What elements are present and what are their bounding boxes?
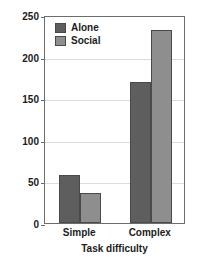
legend-swatch-social-icon — [55, 36, 66, 46]
legend-label-social: Social — [71, 36, 100, 46]
y-axis-tick-mark — [41, 142, 45, 143]
bar-simple-alone — [59, 175, 80, 223]
y-axis-tick-label: 250 — [22, 12, 39, 22]
y-axis-tick-label: 0 — [33, 220, 39, 230]
y-axis-tick-label: 100 — [22, 137, 39, 147]
bar-chart-figure: Running time 050100150200250 Alone Socia… — [0, 0, 198, 262]
bar-complex-social — [151, 30, 172, 223]
bar-complex-alone — [130, 82, 151, 223]
y-axis-tick-mark — [41, 183, 45, 184]
y-axis-tick-mark — [41, 59, 45, 60]
legend-label-alone: Alone — [71, 23, 99, 33]
y-axis-tick-mark — [41, 17, 45, 18]
plot-area: 050100150200250 Alone Social — [44, 16, 185, 224]
legend: Alone Social — [55, 23, 100, 49]
x-axis-tick-label-complex: Complex — [129, 227, 171, 238]
legend-item-social: Social — [55, 36, 100, 46]
page-bleed-artifact-line2 — [36, 104, 42, 124]
legend-item-alone: Alone — [55, 23, 100, 33]
y-axis-tick-mark — [41, 100, 45, 101]
legend-swatch-alone-icon — [55, 23, 66, 33]
bar-simple-social — [80, 193, 101, 223]
x-axis-title: Task difficulty — [44, 243, 185, 254]
y-axis-tick-label: 200 — [22, 54, 39, 64]
x-axis-tick-label-simple: Simple — [63, 227, 96, 238]
y-axis-tick-label: 50 — [28, 178, 39, 188]
y-axis-tick-mark — [41, 225, 45, 226]
y-axis-tick-label: 150 — [22, 95, 39, 105]
